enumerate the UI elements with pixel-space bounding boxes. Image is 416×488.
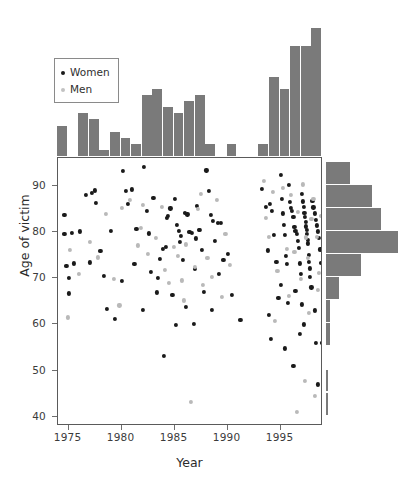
scatter-point-women xyxy=(209,213,213,217)
scatter-point-women xyxy=(170,293,174,297)
x-axis-tick-mark xyxy=(121,425,122,430)
scatter-point-women xyxy=(93,188,97,192)
scatter-point-men xyxy=(163,268,167,272)
scatter-point-men xyxy=(287,294,291,298)
scatter-point-men xyxy=(146,252,150,256)
scatter-point-men xyxy=(273,319,277,323)
scatter-point-women xyxy=(194,236,198,240)
right-histogram-bar xyxy=(326,370,328,392)
scatter-point-men xyxy=(199,191,203,195)
top-histogram-bar xyxy=(174,113,184,156)
scatter-point-women xyxy=(162,354,166,358)
scatter-point-women xyxy=(290,209,294,213)
scatter-point-women xyxy=(316,229,320,233)
scatter-point-women xyxy=(202,290,206,294)
scatter-point-women xyxy=(291,364,295,368)
scatter-point-women xyxy=(221,258,225,262)
scatter-point-women xyxy=(226,252,230,256)
scatter-point-women xyxy=(166,214,170,218)
scatter-point-men xyxy=(311,197,315,201)
scatter-point-men xyxy=(77,271,81,275)
scatter-point-men xyxy=(120,206,124,210)
scatter-point-women xyxy=(293,289,297,293)
scatter-point-women xyxy=(185,212,189,216)
scatter-point-women xyxy=(145,209,149,213)
y-axis-title: Age of victim xyxy=(17,156,32,316)
scatter-point-women xyxy=(151,196,155,200)
scatter-point-women xyxy=(141,307,145,311)
top-histogram-bar xyxy=(290,46,300,156)
scatter-point-men xyxy=(182,298,186,302)
scatter-point-men xyxy=(210,275,214,279)
scatter-point-women xyxy=(300,302,304,306)
scatter-point-men xyxy=(262,179,266,183)
scatter-point-women xyxy=(282,223,286,227)
scatter-point-women xyxy=(280,197,284,201)
top-histogram-bar xyxy=(121,138,131,156)
scatter-point-women xyxy=(130,187,134,191)
scatter-point-women xyxy=(204,168,208,172)
scatter-point-women xyxy=(308,266,312,270)
scatter-point-women xyxy=(105,307,109,311)
scatter-point-men xyxy=(303,379,307,383)
top-histogram-bar xyxy=(195,95,205,156)
scatter-point-men xyxy=(65,315,69,319)
scatter-point-women xyxy=(259,186,263,190)
scatter-point-men xyxy=(196,207,200,211)
scatter-point-men xyxy=(223,232,227,236)
scatter-point-men xyxy=(264,216,268,220)
scatter-point-women xyxy=(72,261,76,265)
scatter-plot-area xyxy=(57,157,322,425)
scatter-point-men xyxy=(153,236,157,240)
scatter-point-women xyxy=(109,228,113,232)
scatter-point-men xyxy=(128,197,132,201)
scatter-point-women xyxy=(270,209,274,213)
top-histogram-bar xyxy=(78,113,88,156)
scatter-point-women xyxy=(312,308,316,312)
scatter-point-men xyxy=(295,210,299,214)
scatter-point-women xyxy=(285,262,289,266)
scatter-point-men xyxy=(167,281,171,285)
legend-dot-men-icon xyxy=(61,88,65,92)
scatter-point-women xyxy=(198,228,202,232)
right-histogram-bar xyxy=(326,231,398,253)
legend-item-women: Women xyxy=(61,64,118,81)
scatter-point-women xyxy=(302,204,306,208)
scatter-point-men xyxy=(205,256,209,260)
scatter-point-men xyxy=(96,255,100,259)
top-histogram-bar xyxy=(89,119,99,156)
scatter-point-men xyxy=(301,182,305,186)
scatter-point-women xyxy=(297,246,301,250)
scatter-point-women xyxy=(219,221,223,225)
scatter-point-women xyxy=(311,205,315,209)
scatter-point-men xyxy=(317,270,321,274)
y-axis-tick-label: 50 xyxy=(16,364,46,376)
scatter-point-men xyxy=(188,399,192,403)
scatter-point-women xyxy=(62,213,66,217)
scatter-point-men xyxy=(139,226,143,230)
scatter-point-women xyxy=(268,202,272,206)
scatter-point-women xyxy=(189,231,193,235)
scatter-point-women xyxy=(266,248,270,252)
scatter-point-women xyxy=(281,211,285,215)
top-histogram-bar xyxy=(99,150,109,156)
top-histogram-bar xyxy=(258,144,268,156)
scatter-point-men xyxy=(135,243,139,247)
scatter-point-men xyxy=(289,193,293,197)
scatter-point-women xyxy=(211,219,215,223)
legend-label-men: Men xyxy=(70,84,92,95)
scatter-point-women xyxy=(303,215,307,219)
scatter-point-women xyxy=(288,200,292,204)
scatter-point-women xyxy=(132,262,136,266)
x-axis-tick-label: 1985 xyxy=(152,431,196,443)
scatter-point-women xyxy=(302,322,306,326)
scatter-point-women xyxy=(101,274,105,278)
scatter-point-men xyxy=(112,277,116,281)
right-marginal-histogram xyxy=(326,157,412,425)
scatter-point-men xyxy=(285,247,289,251)
scatter-point-men xyxy=(228,263,232,267)
scatter-point-women xyxy=(126,202,130,206)
right-histogram-bar xyxy=(326,393,328,415)
scatter-point-women xyxy=(217,272,221,276)
scatter-point-women xyxy=(315,223,319,227)
